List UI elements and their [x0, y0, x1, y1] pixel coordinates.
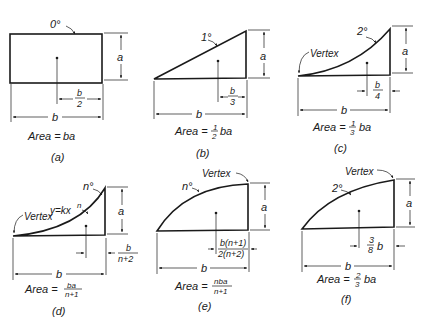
vertex-arrow [14, 215, 23, 233]
caption: (a) [51, 151, 65, 163]
centroid-frac-den: 8 [368, 245, 373, 255]
degree-label: 1° [201, 31, 212, 43]
centroid-frac-num: 3 [369, 235, 374, 245]
centroid-dot [215, 212, 218, 215]
centroid-dot [85, 225, 88, 228]
width-label: b [201, 262, 207, 274]
figure-d-general-spandrel: n° y=kx n Vertex a b n+2 b Area = ba n+1… [13, 180, 138, 317]
area-prefix: Area = [24, 283, 58, 295]
area-frac-den: n+1 [65, 290, 79, 299]
degree-arrow [66, 26, 75, 34]
degree-label: n° [83, 180, 94, 192]
convex-area-shape [157, 184, 248, 231]
height-label: a [260, 50, 266, 62]
vertex-label: Vertex [24, 211, 54, 222]
centroid-label-den: 4 [375, 91, 380, 101]
width-label: b [345, 260, 351, 272]
degree-arrow [366, 37, 376, 43]
vertex-arrow [236, 173, 248, 182]
height-label: a [261, 201, 267, 213]
vertex-label: Vertex [202, 168, 232, 179]
degree-label: 2° [331, 182, 343, 194]
centroid-label-den: 3 [230, 97, 235, 107]
width-label: b [52, 111, 58, 123]
parabolic-area-shape [302, 180, 394, 229]
height-label: a [406, 197, 412, 209]
centroid-label-num: b(n+1) [220, 238, 246, 248]
area-formula: ba [220, 125, 232, 137]
centroid-dot [217, 60, 220, 63]
centroid-label-den: 2(n+2) [217, 249, 244, 259]
centroid-label-num: b [375, 80, 380, 90]
caption: (f) [341, 293, 352, 305]
vertex-arrow [377, 170, 393, 178]
centroid-suffix: b [377, 240, 383, 252]
height-label: a [402, 45, 408, 57]
area-frac-den: n+1 [214, 287, 228, 296]
area-prefix: Area = [312, 121, 346, 133]
area-prefix: Area = [174, 280, 208, 292]
centroid-label-den: n+2 [118, 254, 133, 264]
degree-label: n° [182, 180, 193, 192]
figure-e-convex-area: n° Vertex a b(n+1) 2(n+2) b Area = nba n… [157, 168, 270, 312]
area-prefix: Area = [27, 130, 61, 142]
vertex-label: Vertex [345, 166, 375, 177]
vertex-label: Vertex [310, 48, 340, 59]
degree-arrow [192, 188, 199, 192]
area-frac-den: 3 [350, 128, 355, 137]
area-frac-num: nba [214, 277, 228, 286]
vertex-arrow [299, 52, 309, 73]
caption: (c) [334, 142, 347, 154]
area-formula: ba [63, 130, 75, 142]
width-label: b [341, 104, 347, 116]
equation-exponent: n [77, 201, 82, 210]
degree-label: 0° [50, 18, 61, 30]
figure-f-parabolic-area: 2° Vertex a 3 8 b b Area = 2 3 ba (f) [302, 166, 415, 305]
centroid-label-num: b [126, 243, 131, 253]
centroid-dot [56, 57, 59, 60]
centroid-label-den: 2 [76, 99, 82, 109]
area-prefix: Area = [174, 125, 208, 137]
figure-a-rectangle: 0° a b 2 b Area = ba (a) [10, 18, 128, 163]
centroid-dot [358, 210, 361, 213]
figure-b-triangle: 1° a b 3 b Area = 1 2 ba (b) [154, 30, 270, 159]
area-formula: ba [359, 121, 371, 133]
area-frac-den: 2 [211, 132, 217, 141]
width-label: b [56, 268, 62, 280]
height-label: a [117, 51, 123, 63]
figure-c-parabolic-spandrel: 2° Vertex a b 4 b Area = 1 3 ba (c) [298, 25, 413, 154]
centroid-label-num: b [230, 86, 235, 96]
area-prefix: Area = [316, 273, 350, 285]
width-label: b [196, 108, 202, 120]
caption: (b) [196, 147, 210, 159]
caption: (d) [52, 305, 66, 317]
degree-label: 2° [356, 25, 368, 37]
area-formula: ba [364, 273, 376, 285]
area-frac-den: 3 [355, 280, 360, 289]
area-centroid-diagram: 0° a b 2 b Area = ba (a) 1° a [0, 0, 427, 321]
centroid-label-num: b [77, 88, 82, 98]
centroid-dot [366, 62, 369, 65]
caption: (e) [198, 300, 212, 312]
triangle-shape [154, 31, 246, 79]
height-label: a [118, 205, 124, 217]
